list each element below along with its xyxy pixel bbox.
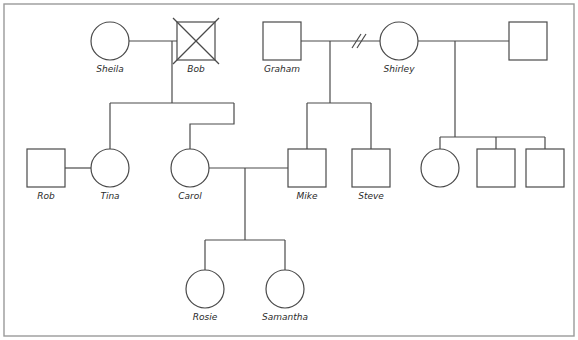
female-circle-sheila[interactable] (91, 22, 129, 60)
male-square-steve[interactable] (352, 149, 390, 187)
person-node-carol[interactable]: Carol (171, 149, 209, 201)
female-circle-tina[interactable] (91, 149, 129, 187)
male-square-unlabeled-partner[interactable] (509, 22, 547, 60)
person-node-child-r1[interactable] (421, 149, 459, 187)
person-node-sheila[interactable]: Sheila (91, 22, 129, 74)
person-nodes-group: Sheila Bob Graham Shirley (27, 18, 564, 322)
female-circle-rosie[interactable] (186, 270, 224, 308)
person-label-carol: Carol (178, 191, 202, 201)
female-circle-samantha[interactable] (266, 270, 304, 308)
genogram-diagram: Sheila Bob Graham Shirley (0, 0, 578, 340)
person-label-steve: Steve (358, 191, 384, 201)
child-drop-carol (190, 103, 234, 149)
male-square-unlabeled-child-3[interactable] (526, 149, 564, 187)
person-label-samantha: Samantha (262, 312, 308, 322)
genogram-canvas: Sheila Bob Graham Shirley (0, 0, 578, 340)
male-square-mike[interactable] (288, 149, 326, 187)
person-node-child-r2[interactable] (477, 149, 515, 187)
person-label-rosie: Rosie (193, 312, 218, 322)
male-square-rob[interactable] (27, 149, 65, 187)
person-node-shirley[interactable]: Shirley (380, 22, 418, 74)
female-circle-unlabeled-child-1[interactable] (421, 149, 459, 187)
person-node-samantha[interactable]: Samantha (262, 270, 308, 322)
person-label-rob: Rob (37, 191, 55, 201)
female-circle-carol[interactable] (171, 149, 209, 187)
person-node-child-r3[interactable] (526, 149, 564, 187)
person-node-mike[interactable]: Mike (288, 149, 326, 201)
male-square-unlabeled-child-2[interactable] (477, 149, 515, 187)
person-label-sheila: Sheila (96, 64, 123, 74)
person-label-shirley: Shirley (384, 64, 416, 74)
person-node-bob[interactable]: Bob (173, 18, 219, 74)
female-circle-shirley[interactable] (380, 22, 418, 60)
person-label-tina: Tina (100, 191, 119, 201)
person-node-steve[interactable]: Steve (352, 149, 390, 201)
person-label-mike: Mike (296, 191, 317, 201)
person-label-graham: Graham (264, 64, 300, 74)
person-node-rob[interactable]: Rob (27, 149, 65, 201)
male-square-graham[interactable] (263, 22, 301, 60)
person-label-bob: Bob (187, 64, 205, 74)
person-node-tina[interactable]: Tina (91, 149, 129, 201)
person-node-rosie[interactable]: Rosie (186, 270, 224, 322)
person-node-partner2[interactable] (509, 22, 547, 60)
person-node-graham[interactable]: Graham (263, 22, 301, 74)
